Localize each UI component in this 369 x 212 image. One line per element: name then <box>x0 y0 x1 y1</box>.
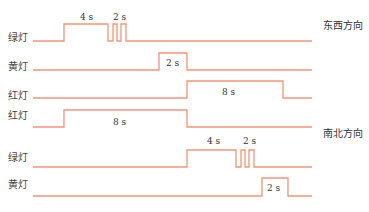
ns-red-duration-8s: 8 s <box>113 118 126 127</box>
north-south-direction-label: 南北方向 <box>323 129 363 139</box>
ew-green-duration-2s: 2 s <box>113 13 126 22</box>
ns-green-waveform <box>33 150 312 167</box>
ns-green-duration-2s: 2 s <box>243 137 256 146</box>
ns-yellow-label: 黄灯 <box>8 180 28 190</box>
ew-yellow-duration-2s: 2 s <box>166 59 179 68</box>
ns-red-label: 红灯 <box>8 111 28 121</box>
ew-green-label: 绿灯 <box>8 33 28 43</box>
ns-red-waveform <box>33 110 312 127</box>
ns-green-label: 绿灯 <box>8 153 28 163</box>
ew-green-duration-4s: 4 s <box>80 13 93 22</box>
ew-yellow-label: 黄灯 <box>8 62 28 72</box>
ew-red-label: 红灯 <box>8 91 28 101</box>
ew-red-duration-8s: 8 s <box>222 88 235 97</box>
timing-diagram: 绿灯 黄灯 红灯 红灯 绿灯 黄灯 4 s 2 s 2 s 8 s 8 s 4 … <box>0 0 369 212</box>
ew-red-waveform <box>33 81 312 98</box>
ns-yellow-duration-2s: 2 s <box>267 184 280 193</box>
ew-green-waveform <box>33 24 312 41</box>
signal-waveforms <box>0 0 369 212</box>
ns-green-duration-4s: 4 s <box>207 137 220 146</box>
east-west-direction-label: 东西方向 <box>323 21 363 31</box>
